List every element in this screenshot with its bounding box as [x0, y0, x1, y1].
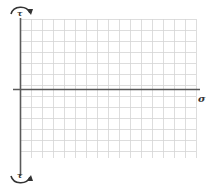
tau-top-label: τ — [17, 8, 23, 18]
tau-bottom-label: τ — [17, 170, 23, 180]
sigma-label: σ — [198, 93, 206, 104]
grid — [20, 19, 197, 158]
mohr-circle-diagram: τ τ σ — [0, 0, 215, 188]
